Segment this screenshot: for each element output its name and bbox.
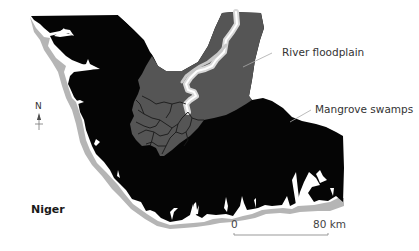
river-floodplain-label: River floodplain: [282, 46, 364, 58]
compass-north-label: N: [35, 101, 42, 111]
scale-bar: [234, 233, 328, 235]
region-label: Niger: [31, 203, 65, 216]
scale-start-label: 0: [231, 218, 238, 230]
mangrove-swamps-label: Mangrove swamps: [315, 103, 413, 115]
scale-end-label: 80 km: [313, 218, 346, 230]
north-arrow-icon: [35, 113, 43, 130]
